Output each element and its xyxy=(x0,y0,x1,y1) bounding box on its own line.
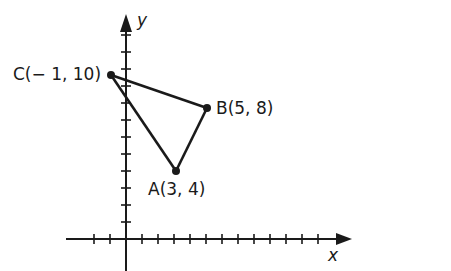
edge-AC xyxy=(111,75,176,171)
y-axis-arrow-icon xyxy=(120,14,132,32)
coordinate-plane xyxy=(0,0,451,271)
x-axis-arrow-icon xyxy=(336,233,352,245)
x-axis-label: x xyxy=(328,247,338,264)
point-A-label: A(3, 4) xyxy=(148,181,205,198)
point-A xyxy=(172,167,180,175)
point-B xyxy=(203,104,211,112)
point-C-label: C(− 1, 10) xyxy=(13,66,101,83)
y-axis-label: y xyxy=(137,12,147,29)
edge-BA xyxy=(176,108,207,171)
point-B-label: B(5, 8) xyxy=(216,100,273,117)
point-C xyxy=(107,71,115,79)
